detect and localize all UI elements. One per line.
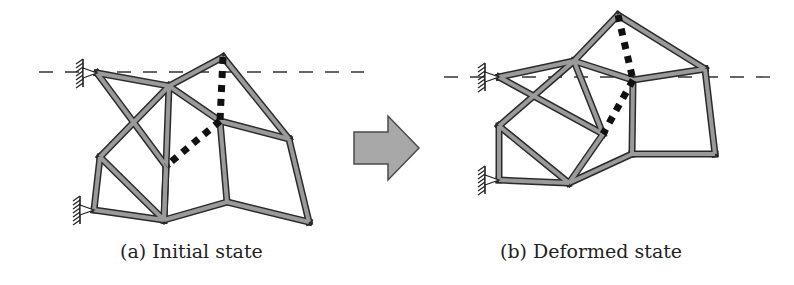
bar — [574, 15, 618, 61]
cable-dotted — [220, 57, 223, 121]
fixed-support-icon — [76, 59, 97, 88]
deformed-state-diagram — [444, 15, 770, 195]
caption-deformed-state: (b) Deformed state — [500, 240, 682, 262]
bar — [227, 202, 309, 222]
bar — [499, 126, 569, 183]
bar — [632, 80, 633, 154]
bar — [169, 86, 220, 121]
cable-dotted — [166, 121, 220, 166]
fixed-support-icon — [478, 63, 499, 92]
caption-initial-state: (a) Initial state — [120, 240, 263, 262]
fixed-support-icon — [73, 196, 94, 225]
transition-arrow-icon — [354, 116, 419, 180]
cable-dotted — [603, 80, 633, 134]
bar — [164, 202, 227, 220]
bar — [164, 166, 166, 220]
initial-state-diagram — [39, 57, 364, 225]
bar — [633, 69, 705, 80]
bar — [289, 139, 309, 222]
